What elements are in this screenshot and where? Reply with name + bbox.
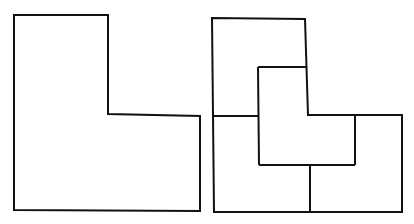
outline (14, 15, 200, 211)
l-shape-whole (14, 15, 200, 211)
partition-line (258, 67, 259, 165)
diagram-canvas (0, 0, 414, 224)
l-shape-divided (212, 18, 402, 212)
